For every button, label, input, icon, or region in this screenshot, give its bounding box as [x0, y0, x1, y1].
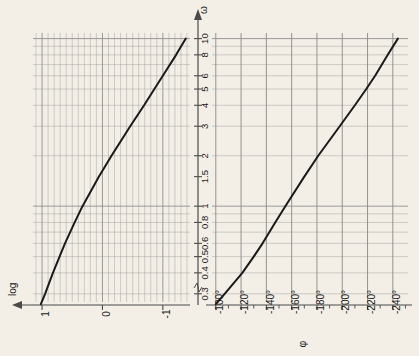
phase-tick-label: -100° [214, 290, 225, 314]
omega-tick-label: 1 [199, 204, 210, 209]
phase-tick-label: -220° [366, 290, 377, 314]
omega-tick-label: 10 [199, 33, 210, 44]
phase-panel: -100°-120°-140°-160°-180°-200°-220°-240°… [206, 33, 412, 347]
omega-tick-label: 6 [199, 73, 210, 78]
phase-tick-label: -200° [340, 290, 351, 314]
phase-tick-label: -160° [290, 290, 301, 314]
omega-axis-title: ω [198, 6, 209, 14]
phase-axis-title: φ [296, 340, 308, 347]
omega-tick-label: 1.5 [199, 170, 210, 183]
magnitude-curve [41, 39, 186, 305]
omega-tick-label: 4 [199, 103, 210, 108]
magnitude-tick-label: -1 [161, 309, 172, 318]
bode-figure: 10-1logω0.30.40.50.60.811.523456810-100°… [0, 0, 419, 356]
omega-tick-label: 0.6 [199, 237, 210, 250]
magnitude-panel: 10-1log [7, 33, 190, 318]
omega-tick-label: 3 [199, 124, 210, 129]
phase-tick-label: -140° [265, 290, 276, 314]
phase-tick-label: -120° [239, 290, 250, 314]
bode-plot-svg: 10-1logω0.30.40.50.60.811.523456810-100°… [0, 0, 419, 356]
phase-curve [216, 39, 398, 305]
magnitude-tick-label: 0 [101, 311, 112, 317]
omega-axis: ω0.30.40.50.60.811.523456810 [194, 6, 210, 305]
omega-tick-label: 8 [199, 52, 210, 57]
omega-tick-label: 2 [199, 153, 210, 158]
phase-axis: -100°-120°-140°-160°-180°-200°-220°-240°… [206, 290, 412, 347]
magnitude-axis-arrow-icon [12, 301, 22, 309]
omega-tick-label: 0.5 [199, 250, 210, 263]
omega-tick-label: 0.8 [199, 216, 210, 229]
magnitude-tick-label: 1 [40, 311, 51, 317]
magnitude-axis-title: log [7, 283, 18, 296]
phase-tick-label: -240° [391, 290, 402, 314]
omega-tick-label: 0.4 [199, 266, 210, 279]
omega-tick-label: 5 [199, 86, 210, 91]
phase-tick-label: -180° [315, 290, 326, 314]
